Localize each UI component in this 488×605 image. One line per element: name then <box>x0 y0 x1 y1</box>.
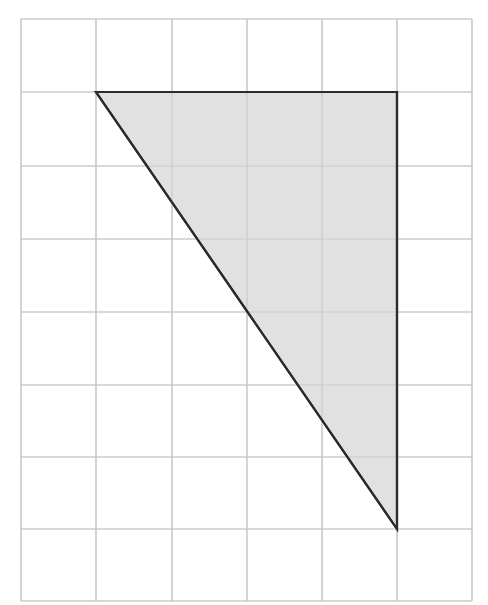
grid-diagram <box>0 0 488 605</box>
